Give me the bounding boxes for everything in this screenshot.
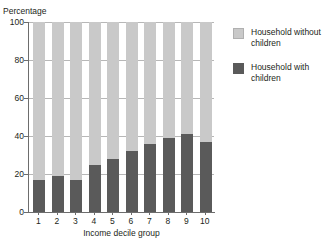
x-axis-tick — [186, 212, 187, 215]
bar-stack — [107, 22, 119, 212]
x-axis-title: Income decile group — [29, 228, 214, 238]
bar-segment-with-children — [200, 142, 212, 212]
x-axis-tick — [205, 212, 206, 215]
bar-stack — [163, 22, 175, 212]
bar-segment-without-children — [144, 22, 156, 144]
y-axis-tick — [24, 212, 29, 213]
plot-area — [29, 22, 214, 212]
x-axis-tick-label: 10 — [194, 216, 216, 226]
bar-segment-without-children — [89, 22, 101, 165]
bar-segment-with-children — [181, 134, 193, 212]
bar-segment-without-children — [163, 22, 175, 138]
bar-stack — [33, 22, 45, 212]
bar-segment-with-children — [126, 151, 138, 212]
bar-segment-with-children — [107, 159, 119, 212]
bar-segment-with-children — [33, 180, 45, 212]
bar-segment-with-children — [52, 176, 64, 212]
x-axis-tick — [168, 212, 169, 215]
bar-segment-with-children — [70, 180, 82, 212]
y-axis-tick-label: 100 — [0, 18, 24, 27]
bar-segment-with-children — [144, 144, 156, 212]
chart-legend: Household without children Household wit… — [233, 27, 323, 97]
legend-swatch-icon — [233, 28, 244, 39]
y-axis-tick-label: 60 — [0, 94, 24, 103]
legend-item: Household without children — [233, 27, 323, 48]
bar-stack — [200, 22, 212, 212]
legend-item: Household with children — [233, 62, 323, 83]
legend-item-label: Household with children — [251, 62, 323, 83]
x-axis-tick — [149, 212, 150, 215]
bar-segment-without-children — [52, 22, 64, 176]
bar-stack — [181, 22, 193, 212]
x-axis-tick — [57, 212, 58, 215]
bar-segment-with-children — [89, 165, 101, 213]
bar-segment-without-children — [33, 22, 45, 180]
y-axis-tick-label: 0 — [0, 208, 24, 217]
x-axis-tick — [75, 212, 76, 215]
legend-swatch-icon — [233, 63, 244, 74]
bar-segment-with-children — [163, 138, 175, 212]
bar-segment-without-children — [181, 22, 193, 134]
bar-segment-without-children — [70, 22, 82, 180]
bar-stack — [144, 22, 156, 212]
y-axis-tick-label: 20 — [0, 170, 24, 179]
bar-segment-without-children — [200, 22, 212, 142]
chart-container: Percentage 020406080100 12345678910 Inco… — [0, 0, 325, 240]
y-axis-title: Percentage — [3, 6, 46, 16]
x-axis-tick — [112, 212, 113, 215]
bar-stack — [126, 22, 138, 212]
bar-stack — [52, 22, 64, 212]
bar-stack — [70, 22, 82, 212]
legend-item-label: Household without children — [251, 27, 323, 48]
bar-segment-without-children — [107, 22, 119, 159]
y-axis-tick-label: 80 — [0, 56, 24, 65]
x-axis-tick — [38, 212, 39, 215]
y-axis-tick-label: 40 — [0, 132, 24, 141]
bar-segment-without-children — [126, 22, 138, 151]
x-axis-tick — [94, 212, 95, 215]
x-axis-tick — [131, 212, 132, 215]
bar-stack — [89, 22, 101, 212]
